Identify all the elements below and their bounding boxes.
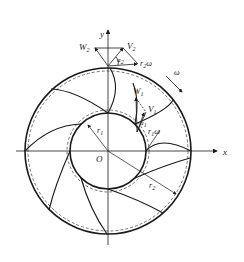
blade-7 <box>49 151 70 210</box>
w1-label: W1 <box>133 86 144 97</box>
r1-label: r1 <box>97 126 103 136</box>
v1-label: V1 <box>148 104 157 115</box>
origin-label: O <box>96 154 103 164</box>
y-axis-label: y <box>99 29 104 39</box>
blade-9 <box>51 89 108 113</box>
rotation-arrow <box>166 76 182 92</box>
r1-omega-label: r1ω <box>148 127 160 137</box>
blade-1 <box>108 68 116 113</box>
r2-omega-label: r2ω <box>140 59 152 69</box>
r2-label: r2 <box>149 181 155 191</box>
alpha1-label: α1 <box>140 119 147 128</box>
blade-3 <box>146 143 191 151</box>
omega-label: ω <box>174 68 180 77</box>
impeller-diagram: y x O ω W2 V2 α2 r2ω W1 V1 α1 r1ω r1 r2 <box>0 0 244 262</box>
alpha2-label: α2 <box>117 56 124 65</box>
blade-5 <box>108 189 163 213</box>
v2-label: V2 <box>127 41 136 52</box>
blade-4 <box>135 158 190 178</box>
w2-label: W2 <box>79 42 90 53</box>
x-axis-label: x <box>222 147 227 157</box>
